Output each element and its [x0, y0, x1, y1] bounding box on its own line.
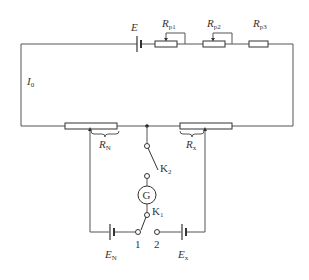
label-k1: K1 [152, 205, 164, 219]
rheostat-rp1 [155, 33, 185, 47]
galvanometer: G [138, 186, 156, 204]
label-k2: K2 [160, 162, 172, 176]
terminal-1 [136, 230, 141, 235]
resistor-rp3 [249, 41, 268, 47]
brace-rx [180, 131, 204, 137]
terminal-2 [155, 230, 160, 235]
label-rx: Rx [185, 138, 197, 152]
main-loop-wires [21, 44, 293, 126]
label-en: EN [104, 248, 117, 262]
label-ex: Ex [177, 248, 189, 262]
slide-wire-rn [65, 123, 117, 129]
unknown-emf-branch [160, 127, 208, 240]
label-i0: I0 [26, 75, 35, 89]
label-terminal-2: 2 [154, 238, 160, 250]
label-rp2: Rp2 [206, 17, 221, 31]
battery-e [137, 36, 141, 52]
label-rp1: Rp1 [161, 17, 176, 31]
label-e: E [130, 21, 138, 33]
rheostat-rp2 [203, 33, 232, 47]
label-rp3: Rp3 [252, 17, 267, 31]
potentiometer-circuit-diagram: E Rp1 Rp2 Rp3 I0 RN Rx K2 G [0, 0, 309, 280]
label-g: G [143, 189, 151, 201]
label-rn: RN [98, 138, 111, 152]
brace-rn [91, 131, 119, 137]
slide-wire-rx [180, 123, 232, 129]
standard-cell-branch [88, 127, 136, 240]
label-terminal-1: 1 [135, 238, 141, 250]
switch-k2 [145, 126, 159, 186]
